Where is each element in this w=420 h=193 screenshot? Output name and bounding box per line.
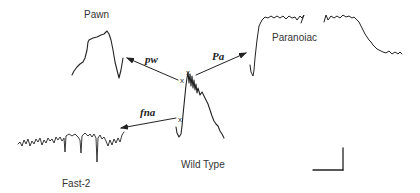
fna-arrow [121,118,176,128]
pawn-trace [72,31,123,78]
wild-type-label: Wild Type [181,159,225,170]
stimulus-mark-fna: x [178,115,182,124]
fast2-trace [18,132,124,162]
scale-bar [313,148,343,170]
fna-gene-label: fna [140,106,155,118]
paranoiac-trace [250,15,402,76]
mutant-action-potential-diagram: x x x Pawn Paranoiac Fast-2 Wild Type pw… [0,0,420,193]
pw-gene-label: pw [145,53,158,65]
paranoiac-label: Paranoiac [272,32,317,43]
stimulus-mark-pa: x [186,68,190,77]
pa-gene-label: Pa [212,50,224,62]
stimulus-mark-pw: x [180,76,184,85]
pawn-label: Pawn [84,9,109,20]
fast2-label: Fast-2 [62,178,90,189]
